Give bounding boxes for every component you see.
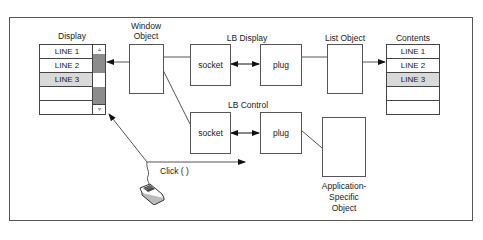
lb-control-socket: socket: [190, 112, 231, 154]
app-object-label-2: Specific: [314, 192, 374, 202]
contents-row-5: [387, 101, 439, 115]
window-object-title-1: Window: [126, 21, 166, 31]
lb-display-socket: socket: [190, 44, 231, 86]
list-object-box: [327, 44, 363, 94]
scroll-thumb-lower[interactable]: [93, 87, 105, 105]
contents-title: Contents: [386, 33, 440, 43]
contents-listbox: LINE 1 LINE 2 LINE 3: [386, 44, 440, 115]
lb-control-plug: plug: [260, 112, 302, 154]
mouse-icon: [138, 183, 170, 205]
display-title: Display: [39, 31, 105, 41]
display-row-5[interactable]: [40, 101, 94, 115]
display-row-1[interactable]: LINE 1: [40, 45, 94, 59]
list-object-title: List Object: [318, 33, 372, 43]
lb-display-title: LB Display: [222, 33, 272, 43]
display-listbox[interactable]: LINE 1 LINE 2 LINE 3 ▵ ▿: [39, 44, 106, 115]
app-specific-object-box: [322, 117, 366, 177]
display-scrollbar[interactable]: ▵ ▿: [92, 45, 105, 114]
display-row-2[interactable]: LINE 2: [40, 59, 94, 73]
display-row-3-selected[interactable]: LINE 3: [40, 73, 94, 87]
click-label: Click ( ): [160, 166, 196, 176]
lb-control-title: LB Control: [220, 100, 276, 110]
window-object-box: [129, 44, 164, 94]
lb-display-plug-label: plug: [261, 60, 301, 70]
display-row-4[interactable]: [40, 87, 94, 101]
contents-row-3-selected: LINE 3: [387, 73, 439, 87]
window-object-title-2: Object: [126, 31, 166, 41]
scroll-down-arrow-icon[interactable]: ▿: [93, 104, 105, 114]
lb-display-socket-label: socket: [191, 60, 230, 70]
app-object-label-3: Object: [314, 203, 374, 213]
lb-control-socket-label: socket: [191, 128, 230, 138]
contents-row-2: LINE 2: [387, 59, 439, 73]
scroll-thumb-upper[interactable]: [93, 54, 105, 73]
lb-control-plug-label: plug: [261, 128, 301, 138]
app-object-label-1: Application-: [314, 181, 374, 191]
contents-row-4: [387, 87, 439, 101]
contents-row-1: LINE 1: [387, 45, 439, 59]
lb-display-plug: plug: [260, 44, 302, 86]
